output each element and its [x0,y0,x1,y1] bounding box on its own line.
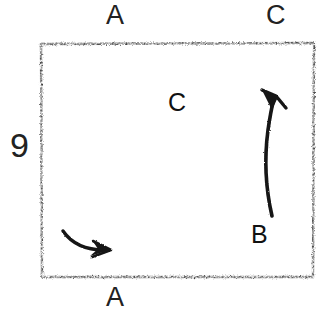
label-bottom-a: A [106,284,124,311]
figure-root: A C 9 A C B [0,0,325,315]
figure-number-label: 9 [10,128,29,162]
label-top-c: C [266,2,286,29]
sketch-canvas [0,0,325,315]
lower-thin-wedge [99,223,233,272]
main-shaded-blob [60,62,222,214]
arrow-bottom-left [63,231,111,257]
arrow-right-curved [262,90,286,216]
label-inner-c: C [168,90,186,115]
label-top-a: A [106,2,124,29]
label-inner-b: B [251,222,268,247]
